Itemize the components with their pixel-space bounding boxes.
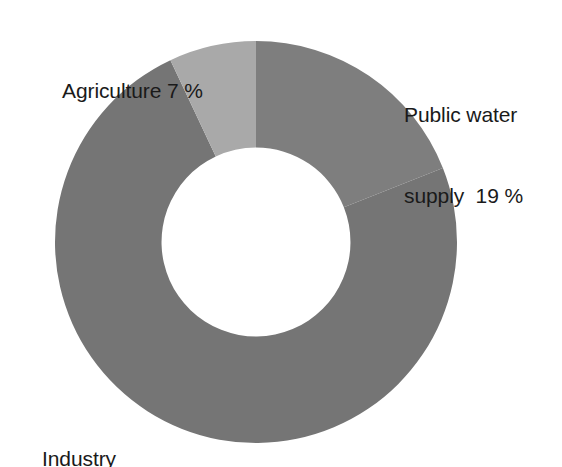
slice-label-public-water-supply-line2: supply 19 % (404, 182, 523, 209)
slice-label-industry: Industry 74 % (27, 391, 131, 467)
slice-label-agriculture-line1: Agriculture 7 % (62, 77, 203, 104)
slice-label-public-water-supply: Public water supply 19 % (404, 47, 523, 263)
slice-label-industry-line1: Industry (27, 445, 131, 467)
slice-label-public-water-supply-line1: Public water (404, 101, 523, 128)
slice-label-agriculture: Agriculture 7 % (62, 23, 203, 158)
donut-chart: Agriculture 7 % Public water supply 19 %… (0, 0, 562, 467)
